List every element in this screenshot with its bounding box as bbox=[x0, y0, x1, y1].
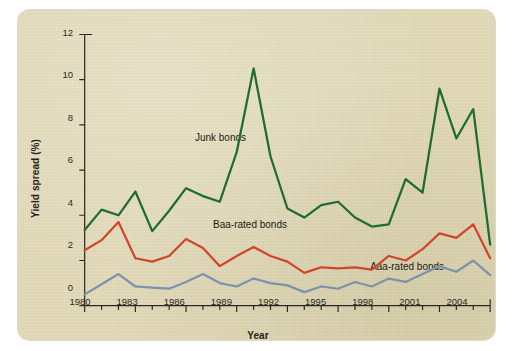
chart-card: Yield spread (%) Year 024681012 19801983… bbox=[18, 10, 495, 340]
chart-figure: Yield spread (%) Year 024681012 19801983… bbox=[0, 0, 513, 351]
data-lines bbox=[85, 68, 490, 294]
plot-area bbox=[18, 10, 495, 340]
